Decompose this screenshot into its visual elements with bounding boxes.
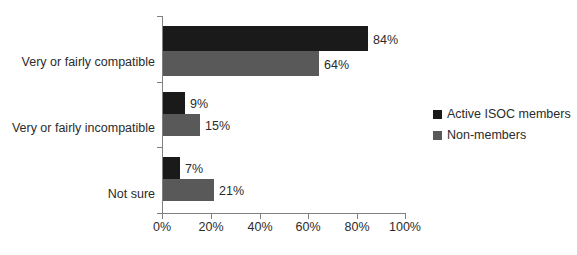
data-label-series1-cat0: 64% bbox=[324, 59, 349, 72]
data-label-series0-cat0: 84% bbox=[373, 34, 398, 47]
x-axis-tick bbox=[211, 213, 212, 219]
x-tick-label-2: 40% bbox=[247, 221, 272, 234]
x-axis-tick bbox=[405, 213, 406, 219]
x-axis-tick bbox=[357, 213, 358, 219]
bar-series1-cat0 bbox=[163, 51, 319, 76]
category-label-2: Not sure bbox=[108, 188, 155, 201]
x-tick-label-0: 0% bbox=[153, 221, 171, 234]
x-tick-label-3: 60% bbox=[295, 221, 320, 234]
legend-label: Active ISOC members bbox=[447, 108, 571, 121]
category-label-1: Very or fairly incompatible bbox=[12, 122, 155, 135]
y-axis-tick bbox=[157, 82, 162, 83]
chart-title-remnant bbox=[120, 0, 420, 1]
y-axis-tick bbox=[157, 16, 162, 17]
bar-series0-cat1 bbox=[163, 92, 185, 114]
x-tick-label-1: 20% bbox=[198, 221, 223, 234]
chart-legend: Active ISOC members Non-members bbox=[433, 104, 577, 146]
x-tick-label-5: 100% bbox=[389, 221, 421, 234]
legend-item-non-members: Non-members bbox=[433, 125, 577, 146]
data-label-series1-cat2: 21% bbox=[219, 185, 244, 198]
x-axis-line bbox=[162, 213, 406, 214]
category-label-0: Very or fairly compatible bbox=[22, 56, 155, 69]
legend-swatch-icon bbox=[433, 131, 442, 140]
bar-series1-cat2 bbox=[163, 179, 214, 201]
x-tick-label-4: 80% bbox=[344, 221, 369, 234]
data-label-series0-cat1: 9% bbox=[190, 98, 208, 111]
bar-series0-cat2 bbox=[163, 157, 180, 179]
y-axis-tick bbox=[157, 147, 162, 148]
bar-series0-cat0 bbox=[163, 26, 368, 51]
data-label-series0-cat2: 7% bbox=[185, 163, 203, 176]
x-axis-tick bbox=[260, 213, 261, 219]
legend-swatch-icon bbox=[433, 110, 442, 119]
bar-series1-cat1 bbox=[163, 114, 200, 136]
bar-chart: Very or fairly compatible Very or fairly… bbox=[0, 0, 577, 255]
x-axis-tick bbox=[308, 213, 309, 219]
data-label-series1-cat1: 15% bbox=[205, 120, 230, 133]
category-axis-labels: Very or fairly compatible Very or fairly… bbox=[0, 16, 155, 213]
legend-label: Non-members bbox=[447, 129, 526, 142]
x-axis-tick bbox=[162, 213, 163, 219]
plot-area: 84% 64% 9% 15% 7% 21% bbox=[162, 16, 406, 213]
legend-item-active-isoc-members: Active ISOC members bbox=[433, 104, 577, 125]
